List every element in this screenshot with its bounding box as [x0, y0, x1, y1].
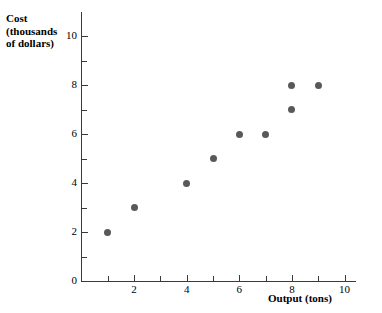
data-point: [288, 106, 295, 113]
data-point: [104, 229, 111, 236]
y-axis-major-tick: [82, 85, 88, 86]
data-point: [183, 180, 190, 187]
y-axis-tick-label: 4: [55, 176, 77, 188]
x-axis-minor-tick: [266, 276, 267, 281]
y-axis-major-tick: [82, 183, 88, 184]
data-point: [236, 131, 243, 138]
y-axis-tick-label: 6: [55, 127, 77, 139]
y-axis-tick-label: 0: [55, 274, 77, 286]
x-axis-tick-label: 2: [123, 283, 145, 295]
y-axis-minor-tick: [82, 257, 87, 258]
y-axis-major-tick: [82, 36, 88, 37]
y-axis-major-tick: [82, 232, 88, 233]
y-axis-line: [81, 12, 82, 282]
data-point: [288, 82, 295, 89]
x-axis-major-tick: [134, 275, 135, 281]
x-axis-tick-label: 6: [228, 283, 250, 295]
y-axis-major-tick: [82, 134, 88, 135]
x-axis-minor-tick: [160, 276, 161, 281]
x-axis-major-tick: [187, 275, 188, 281]
x-axis-line: [81, 281, 356, 282]
scatter-chart-figure: Cost (thousands of dollars) Output (tons…: [0, 0, 382, 313]
data-point: [210, 155, 217, 162]
y-axis-tick-label: 8: [55, 78, 77, 90]
y-axis-tick-label: 10: [55, 29, 77, 41]
x-axis-minor-tick: [108, 276, 109, 281]
plot-area: 02468102468100: [0, 0, 382, 313]
x-axis-tick-label: 4: [176, 283, 198, 295]
y-axis-tick-label: 2: [55, 225, 77, 237]
y-axis-minor-tick: [82, 159, 87, 160]
x-axis-minor-tick: [213, 276, 214, 281]
y-axis-minor-tick: [82, 208, 87, 209]
x-axis-tick-label: 8: [281, 283, 303, 295]
x-axis-major-tick: [292, 275, 293, 281]
x-axis-major-tick: [345, 275, 346, 281]
data-point: [315, 82, 322, 89]
data-point: [131, 204, 138, 211]
y-axis-minor-tick: [82, 61, 87, 62]
data-point: [262, 131, 269, 138]
x-axis-tick-label: 10: [334, 283, 356, 295]
y-axis-minor-tick: [82, 110, 87, 111]
x-axis-minor-tick: [318, 276, 319, 281]
x-axis-major-tick: [239, 275, 240, 281]
